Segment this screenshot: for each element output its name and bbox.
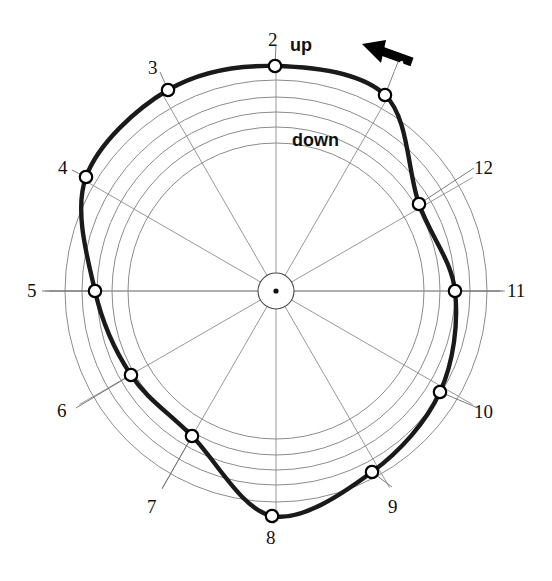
axis-tick-label-5: 5 [27, 281, 37, 300]
axis-tick-label-4: 4 [58, 158, 68, 177]
center-point-dot [273, 288, 278, 293]
leader-line-6 [162, 436, 192, 489]
axis-tick-label-11: 11 [507, 281, 525, 300]
data-point-marker-11 [449, 285, 461, 297]
polar-diagram-figure: 23456789101112 updownA [0, 0, 552, 581]
arrow-direction-label: A [395, 58, 406, 75]
center-hub-group [258, 273, 294, 309]
axis-tick-label-12: 12 [474, 158, 493, 177]
data-point-marker-9 [366, 466, 378, 478]
axis-tick-label-2: 2 [268, 30, 278, 49]
data-point-marker-10 [434, 386, 446, 398]
axis-tick-label-6: 6 [57, 401, 67, 420]
data-point-marker-1 [379, 89, 391, 101]
polar-chart-svg [0, 0, 552, 581]
data-point-marker-2 [269, 60, 281, 72]
data-point-marker-5 [89, 285, 101, 297]
axis-tick-label-3: 3 [148, 58, 158, 77]
arrow-head [362, 40, 386, 63]
orientation-label-down: down [292, 131, 339, 149]
axis-tick-label-7: 7 [147, 497, 157, 516]
data-point-marker-7 [186, 430, 198, 442]
axis-tick-label-10: 10 [474, 402, 493, 421]
orientation-label-up: up [290, 36, 312, 54]
data-point-marker-12 [413, 198, 425, 210]
data-point-marker-3 [162, 84, 174, 96]
axis-tick-label-8: 8 [266, 528, 276, 547]
data-point-marker-6 [125, 369, 137, 381]
data-point-marker-4 [80, 171, 92, 183]
data-point-marker-8 [266, 510, 278, 522]
axis-tick-label-9: 9 [388, 497, 398, 516]
